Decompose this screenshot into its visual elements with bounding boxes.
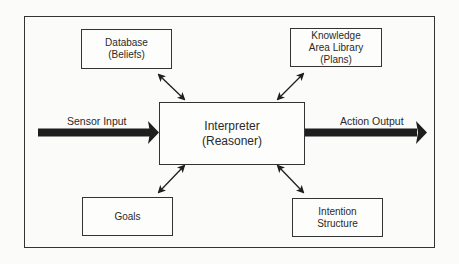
knowledge-interpreter-arrow xyxy=(278,74,303,99)
database-label-line-2: (Beliefs) xyxy=(108,49,145,61)
intention-interpreter-arrow xyxy=(278,166,303,192)
interpreter-label-line-2: (Reasoner) xyxy=(202,134,262,149)
database-interpreter-arrow xyxy=(159,75,184,99)
knowledge-label-line-2: Area Library xyxy=(309,42,363,54)
goals-label: Goals xyxy=(114,211,140,223)
knowledge-area-library-box: Knowledge Area Library (Plans) xyxy=(290,28,382,67)
goals-box: Goals xyxy=(82,197,173,236)
database-label-line-1: Database xyxy=(105,37,148,49)
goals-interpreter-arrow xyxy=(159,166,184,192)
knowledge-label-line-1: Knowledge xyxy=(311,30,360,42)
intention-structure-box: Intention Structure xyxy=(292,198,383,237)
intention-label-line-1: Intention xyxy=(318,206,356,218)
intention-label-line-2: Structure xyxy=(317,218,358,230)
action-output-label: Action Output xyxy=(340,115,404,127)
knowledge-label-line-3: (Plans) xyxy=(320,54,352,66)
interpreter-reasoner-box: Interpreter (Reasoner) xyxy=(159,102,305,165)
sensor-input-label: Sensor Input xyxy=(67,115,127,127)
interpreter-label-line-1: Interpreter xyxy=(204,119,259,134)
database-beliefs-box: Database (Beliefs) xyxy=(81,29,172,69)
